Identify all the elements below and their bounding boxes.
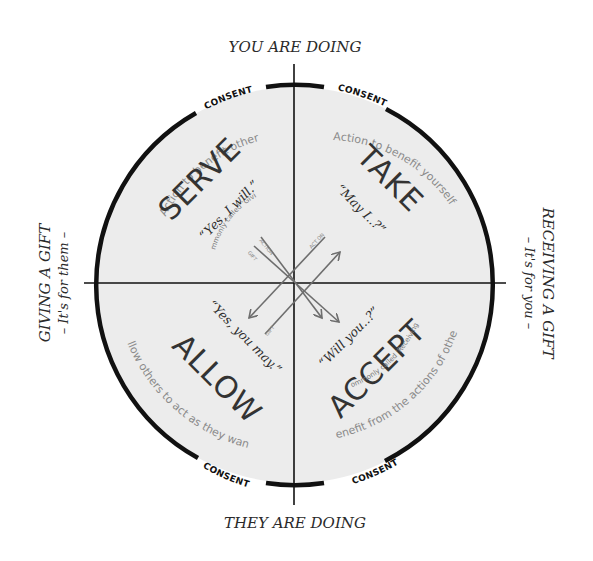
axis-top-label: YOU ARE DOING	[229, 38, 362, 56]
axis-bottom-label: THEY ARE DOING	[224, 514, 366, 532]
axis-right-title: RECEIVING A GIFT	[539, 206, 557, 359]
axis-right-subtitle: – It's for you –	[522, 237, 537, 330]
axis-left-title: GIVING A GIFT	[36, 223, 54, 342]
axis-left-subtitle: – It's for them –	[56, 231, 71, 334]
wheel-of-consent-diagram: YOU ARE DOING THEY ARE DOING GIVING A GI…	[0, 0, 593, 561]
